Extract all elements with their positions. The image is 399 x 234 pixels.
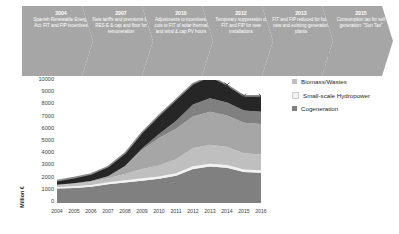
timeline-step-2004: 2004Spanish Renewable Energy Act: FIT an…: [22, 6, 93, 76]
timeline-step-text: Consumption tax for self generation: "Su…: [332, 17, 390, 28]
legend-swatch-icon: [292, 92, 299, 99]
legend-swatch-icon: [292, 79, 297, 84]
legend-label: Cogeneration: [301, 105, 338, 112]
legend-label: Small-scale Hydropower: [303, 92, 370, 99]
timeline-step-year: 2007: [92, 10, 150, 16]
timeline-step-year: 2010: [152, 10, 210, 16]
timeline-step-text: Temporary suppression of FIT and FIP for…: [212, 17, 270, 34]
timeline-step-year: 2013: [272, 10, 330, 16]
timeline-step-text: Adjustments to incentives, cuts to FIT o…: [152, 17, 210, 34]
timeline-step-text: FIT and FIP reduced for both new and exi…: [272, 17, 330, 34]
timeline-step-year: 2015: [332, 10, 390, 16]
y-axis-tick-label: 2000: [14, 175, 54, 181]
y-axis-tick-label: 3000: [14, 162, 54, 168]
legend-item-cogeneration: Cogeneration: [292, 102, 398, 116]
y-axis-tick-label: 1000: [14, 187, 54, 193]
plot-area: [57, 80, 261, 202]
y-axis-tick-label: 9000: [14, 89, 54, 95]
timeline-step-year: 2004: [32, 10, 90, 16]
x-axis-tick-label: 2016: [248, 208, 274, 214]
y-axis-tick-label: 0: [14, 199, 54, 205]
y-axis-tick-label: 6000: [14, 126, 54, 132]
legend-swatch-icon: [292, 106, 297, 111]
legend-item-biomass-wastes: Biomass/Wastes: [292, 75, 398, 89]
policy-timeline: 2004Spanish Renewable Energy Act: FIT an…: [22, 6, 382, 76]
legend-item-small-scale-hydropower: Small-scale Hydropower: [292, 88, 398, 102]
chart-page: 2004Spanish Renewable Energy Act: FIT an…: [0, 0, 399, 234]
x-axis-line: [57, 202, 261, 203]
y-axis-tick-label: 4000: [14, 150, 54, 156]
timeline-step-text: New tariffs and premiums for RES-E & cap…: [92, 17, 150, 34]
y-axis-tick-label: 5000: [14, 138, 54, 144]
timeline-step-text: Spanish Renewable Energy Act: FIT and FI…: [32, 17, 90, 28]
y-axis-tick-label: 8000: [14, 101, 54, 107]
y-axis-tick-label: 10000: [14, 77, 54, 83]
timeline-step-year: 2012: [212, 10, 270, 16]
legend-label: Biomass/Wastes: [301, 78, 347, 85]
y-axis-tick-label: 7000: [14, 114, 54, 120]
